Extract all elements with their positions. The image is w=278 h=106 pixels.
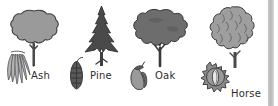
species-label-pine: Pine bbox=[90, 71, 112, 82]
oak-tree-icon bbox=[126, 0, 196, 106]
species-pine: Pine bbox=[62, 0, 130, 106]
tree-chart-figure: Ash Pine bbox=[0, 0, 278, 106]
species-ash: Ash bbox=[0, 0, 70, 106]
species-label-oak: Oak bbox=[155, 71, 175, 82]
conker-case-icon bbox=[201, 62, 230, 92]
species-oak: Oak bbox=[126, 0, 196, 106]
pine-cone-icon bbox=[71, 57, 84, 89]
ash-keys-icon bbox=[8, 54, 30, 84]
acorn-icon bbox=[131, 62, 147, 90]
species-horse-chestnut: Horse chestnut bbox=[192, 0, 278, 106]
page-edge-margin bbox=[274, 0, 278, 106]
species-label-ash: Ash bbox=[31, 71, 50, 82]
ash-tree-icon bbox=[0, 0, 70, 106]
pine-tree-icon bbox=[62, 0, 130, 106]
